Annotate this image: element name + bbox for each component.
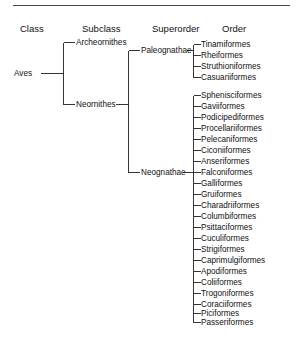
taxon-order-gruiformes: Gruiformes	[201, 190, 242, 199]
column-header-class: Class	[20, 24, 44, 34]
taxon-order-cuculiformes: Cuculiformes	[201, 234, 249, 243]
taxon-order-strigiformes: Strigiformes	[201, 245, 245, 254]
taxon-order-tinamiformes: Tinamiformes	[201, 40, 250, 49]
taxon-order-procellariiformes: Procellariiformes	[201, 124, 262, 133]
taxon-order-falconiformes: Falconiformes	[201, 168, 252, 177]
taxon-order-sphenisciformes: Sphenisciformes	[201, 91, 262, 100]
taxon-order-pelecaniformes: Pelecaniformes	[201, 135, 257, 144]
column-header-superorder: Superorder	[152, 24, 200, 34]
taxon-order-podicipediformes: Podicipediformes	[201, 113, 264, 122]
taxon-order-charadriiformes: Charadriiformes	[201, 201, 259, 210]
taxon-order-coraciiformes: Coraciiformes	[201, 300, 252, 309]
taxon-order-psittaciformes: Psittaciformes	[201, 223, 252, 232]
taxon-order-galliformes: Galliformes	[201, 179, 242, 188]
taxon-order-apodiformes: Apodiformes	[201, 267, 247, 276]
taxon-order-piciformes: Piciformes	[201, 309, 239, 318]
taxon-order-caprimulgiformes: Caprimulgiformes	[201, 256, 265, 265]
column-header-subclass: Subclass	[82, 24, 121, 34]
taxon-subclass-neornithes: Neornithes	[76, 100, 116, 109]
column-header-order: Order	[222, 24, 246, 34]
top-rule	[13, 5, 290, 6]
taxon-subclass-archeornithes: Archeornithes	[76, 38, 127, 47]
taxon-order-columbiformes: Columbiformes	[201, 212, 256, 221]
taxon-order-ciconiiformes: Ciconiiformes	[201, 146, 251, 155]
taxon-order-rheiformes: Rheiformes	[201, 51, 243, 60]
taxon-order-coliiformes: Coliiformes	[201, 278, 242, 287]
taxon-class-aves: Aves	[14, 69, 32, 78]
taxon-order-passeriformes: Passeriformes	[201, 318, 253, 327]
taxonomy-diagram: ClassSubclassSuperorderOrder AvesArcheor…	[0, 0, 298, 341]
taxon-order-anseriformes: Anseriformes	[201, 157, 249, 166]
taxon-superorder-neognathae: Neognathae	[141, 168, 186, 177]
taxon-order-gaviiformes: Gaviiformes	[201, 102, 245, 111]
taxon-order-struthioniformes: Struthioniformes	[201, 62, 261, 71]
taxon-superorder-paleognathae: Paleognathae	[141, 46, 192, 55]
taxon-order-casuariiformes: Casuariiformes	[201, 73, 256, 82]
taxon-order-trogoniformes: Trogoniformes	[201, 289, 253, 298]
